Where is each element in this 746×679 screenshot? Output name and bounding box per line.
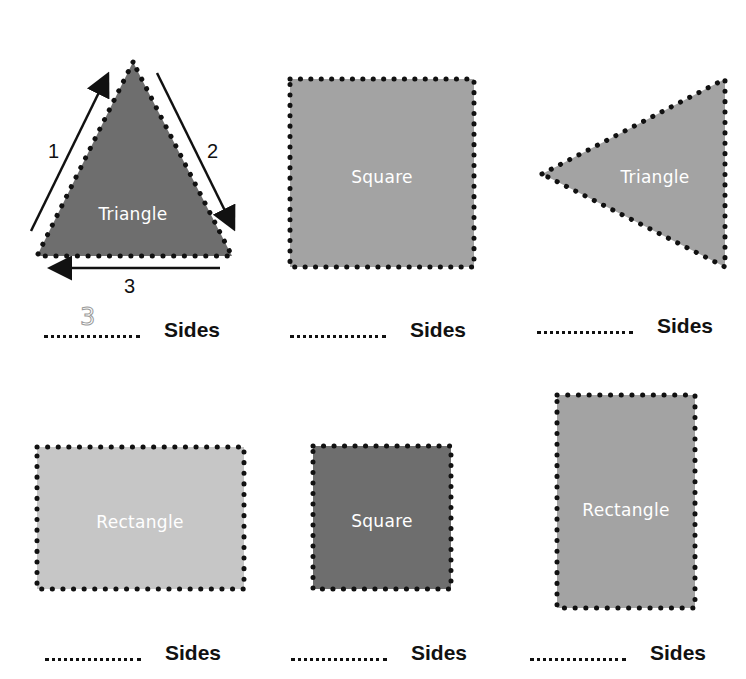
sides-label-4: Sides: [165, 641, 221, 665]
sides-label-3: Sides: [657, 314, 713, 338]
side-number-2: 2: [207, 140, 218, 163]
answer-blank-2[interactable]: [290, 331, 386, 338]
side-number-3: 3: [124, 275, 135, 298]
sides-label-1: Sides: [164, 318, 220, 342]
shape-label-square-1: Square: [330, 167, 434, 187]
answer-row-1: 3 Sides: [44, 302, 220, 342]
answer-row-5: Sides: [291, 625, 467, 665]
sides-label-5: Sides: [411, 641, 467, 665]
sides-label-6: Sides: [650, 641, 706, 665]
answer-row-4: Sides: [45, 625, 221, 665]
answer-row-2: Sides: [290, 302, 466, 342]
shape-label-rectangle-1: Rectangle: [80, 512, 200, 532]
sides-label-2: Sides: [410, 318, 466, 342]
side-number-1: 1: [48, 140, 59, 163]
answer-blank-6[interactable]: [530, 654, 626, 661]
shape-label-square-2: Square: [330, 511, 434, 531]
answer-row-6: Sides: [530, 625, 706, 665]
answer-blank-5[interactable]: [291, 654, 387, 661]
answer-blank-1[interactable]: 3: [44, 331, 140, 338]
answer-blank-3[interactable]: [537, 327, 633, 334]
answer-value-1: 3: [80, 303, 95, 331]
shape-label-triangle-1: Triangle: [88, 204, 178, 224]
answer-row-3: Sides: [537, 298, 713, 338]
shape-label-triangle-2: Triangle: [605, 167, 705, 187]
shape-label-rectangle-2: Rectangle: [566, 500, 686, 520]
answer-blank-4[interactable]: [45, 654, 141, 661]
